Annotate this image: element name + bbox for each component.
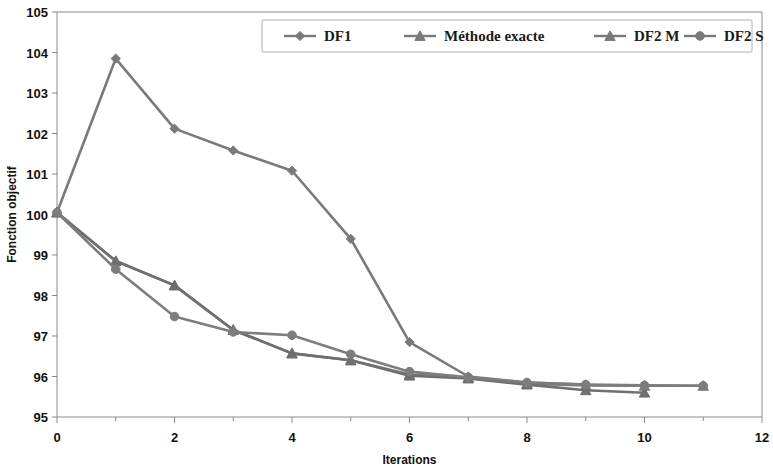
- x-tick-label: 8: [523, 430, 530, 445]
- y-tick-label: 100: [26, 208, 48, 223]
- y-tick-label: 101: [26, 167, 48, 182]
- data-point-circle: [405, 367, 414, 376]
- data-point-circle: [53, 208, 62, 217]
- y-tick-label: 102: [26, 127, 48, 142]
- data-point-circle: [699, 382, 708, 391]
- chart-background: [0, 0, 773, 472]
- y-tick-label: 95: [34, 410, 48, 425]
- chart-legend: DF1Méthode exacteDF2 MDF2 S: [262, 20, 764, 52]
- y-tick-label: 98: [34, 289, 48, 304]
- legend-label: Méthode exacte: [444, 28, 545, 44]
- data-point-circle: [696, 32, 705, 41]
- x-axis-title: Iterations: [382, 453, 436, 467]
- y-axis-title: Fonction objectif: [5, 165, 19, 263]
- y-tick-label: 97: [34, 329, 48, 344]
- x-tick-label: 2: [171, 430, 178, 445]
- data-point-circle: [640, 381, 649, 390]
- legend-label: DF1: [324, 28, 352, 44]
- x-tick-label: 10: [637, 430, 651, 445]
- data-point-circle: [464, 373, 473, 382]
- x-tick-label: 6: [406, 430, 413, 445]
- y-tick-label: 103: [26, 86, 48, 101]
- line-chart: 9596979899100101102103104105 024681012 D…: [0, 0, 773, 472]
- data-point-circle: [229, 328, 238, 337]
- legend-label: DF2 M: [634, 28, 679, 44]
- y-tick-label: 105: [26, 5, 48, 20]
- data-point-circle: [111, 265, 120, 274]
- x-tick-label: 0: [53, 430, 60, 445]
- data-point-circle: [523, 378, 532, 387]
- x-tick-label: 4: [288, 430, 296, 445]
- data-point-circle: [170, 312, 179, 321]
- y-tick-label: 99: [34, 248, 48, 263]
- data-point-circle: [346, 350, 355, 359]
- x-tick-label: 12: [755, 430, 769, 445]
- legend-label: DF2 S: [724, 28, 764, 44]
- y-tick-label: 104: [26, 46, 48, 61]
- data-point-circle: [288, 331, 297, 340]
- y-tick-label: 96: [34, 370, 48, 385]
- chart-container: 9596979899100101102103104105 024681012 D…: [0, 0, 773, 472]
- data-point-circle: [581, 380, 590, 389]
